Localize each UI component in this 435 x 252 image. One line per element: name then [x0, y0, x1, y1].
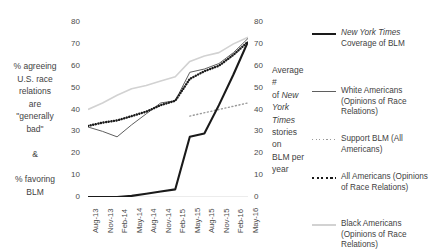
legend-item-all-americans[interactable]: All Americans (Opinions of Race Relation… [312, 172, 434, 193]
legend-swatch-all-americans [312, 172, 336, 184]
legend-label-all-americans: All Americans (Opinions of Race Relation… [341, 172, 434, 193]
legend-item-nyt-coverage[interactable]: New York Times Coverage of BLM [312, 28, 434, 49]
legend-label-nyt-coverage: New York Times Coverage of BLM [341, 28, 434, 49]
right-y-tick-50: 50 [254, 84, 272, 92]
x-tick-feb-14: Feb-14 [120, 209, 129, 233]
x-tick-may-15: May-15 [193, 208, 202, 233]
right-y-tick-10: 10 [254, 171, 272, 179]
x-tick-nov-13: Nov-13 [106, 209, 115, 233]
right-y-tick-40: 40 [254, 106, 272, 114]
series-line-black-americans [88, 37, 248, 109]
x-tick-aug-14: Aug-14 [149, 209, 158, 234]
x-tick-feb-15: Feb-15 [178, 209, 187, 233]
legend-item-black-americans[interactable]: Black Americans (Opinions of Race Relati… [312, 219, 434, 251]
x-tick-may-16: May-16 [251, 208, 260, 233]
x-tick-nov-14: Nov-14 [164, 209, 173, 233]
series-line-all-americans [88, 42, 248, 126]
right-axis-title-italic1: New [281, 90, 298, 100]
legend-swatch-white-americans [312, 86, 336, 98]
x-tick-may-14: May-14 [135, 208, 144, 233]
left-y-tick-10: 10 [62, 171, 80, 179]
legend-label-support-blm-all-americans: Support BLM (All Americans) [341, 134, 434, 155]
right-axis-title: Average # of New York Times stories on B… [272, 64, 308, 176]
x-tick-nov-15: Nov-15 [222, 209, 231, 233]
legend-item-white-americans[interactable]: White Americans (Opinions of Race Relati… [312, 86, 434, 118]
right-y-tick-20: 20 [254, 149, 272, 157]
left-y-tick-50: 50 [62, 84, 80, 92]
left-axis-title: % agreeing U.S. race relations are "gene… [2, 60, 68, 199]
x-tick-aug-13: Aug-13 [91, 209, 100, 234]
legend-label-white-americans: White Americans (Opinions of Race Relati… [341, 86, 434, 118]
x-tick-feb-16: Feb-16 [236, 209, 245, 233]
right-axis-title-italic2: York [272, 102, 289, 112]
left-y-tick-0: 0 [62, 193, 80, 201]
legend-item-support-blm-all-americans[interactable]: Support BLM (All Americans) [312, 134, 434, 155]
right-y-tick-70: 70 [254, 40, 272, 48]
left-y-tick-80: 80 [62, 18, 80, 26]
plot-area [88, 22, 248, 197]
legend-swatch-black-americans [312, 219, 336, 231]
x-tick-aug-15: Aug-15 [207, 209, 216, 234]
left-y-tick-60: 60 [62, 62, 80, 70]
legend-label-black-americans: Black Americans (Opinions of Race Relati… [341, 219, 434, 251]
right-axis-title-line1: Average # [272, 65, 304, 87]
legend-swatch-nyt-coverage [312, 28, 336, 40]
right-y-tick-80: 80 [254, 18, 272, 26]
right-axis-title-italic3: Times [272, 115, 295, 125]
plot-svg [88, 22, 248, 197]
right-y-tick-30: 30 [254, 127, 272, 135]
right-axis-title-line5: stories on [272, 127, 297, 149]
left-y-tick-70: 70 [62, 40, 80, 48]
right-axis-title-line6: BLM per [272, 152, 304, 162]
right-y-tick-0: 0 [254, 193, 272, 201]
left-y-tick-20: 20 [62, 149, 80, 157]
right-y-tick-60: 60 [254, 62, 272, 70]
series-line-nyt-coverage [88, 42, 248, 197]
legend-label-italic-nyt-coverage: New York Times [341, 28, 400, 37]
left-y-tick-30: 30 [62, 127, 80, 135]
chart-figure: % agreeing U.S. race relations are "gene… [0, 0, 435, 252]
right-axis-title-line7: year [272, 164, 289, 174]
left-y-tick-40: 40 [62, 106, 80, 114]
legend-swatch-support-blm-all-americans [312, 134, 336, 146]
